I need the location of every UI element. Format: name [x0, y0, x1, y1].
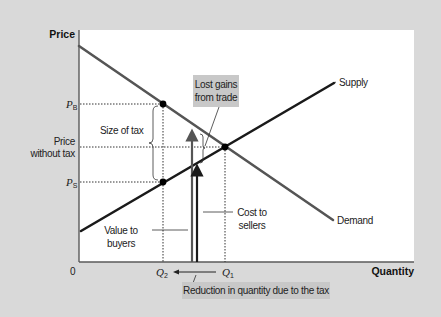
price-without-tax-label-line1: Price [54, 136, 76, 147]
size-of-tax-label: Size of tax [100, 125, 144, 136]
origin-label: 0 [70, 266, 76, 277]
supply-label: Supply [339, 77, 368, 88]
equilibrium-point [222, 144, 229, 151]
seller-price-point [160, 179, 167, 186]
value-to-buyers-label-line2: buyers [107, 238, 136, 249]
tax-deadweight-loss-diagram: Price Quantity 0 PB Price without tax PS… [0, 0, 441, 317]
x-axis-title: Quantity [371, 265, 414, 277]
reduction-leader [193, 275, 196, 283]
y-axis-title: Price [49, 28, 75, 40]
cost-to-sellers-label-line2: sellers [239, 220, 266, 231]
ps-label: PS [65, 176, 78, 189]
value-to-buyers-label-line1: Value to [104, 225, 138, 236]
price-without-tax-label-line2: without tax [29, 148, 75, 159]
buyer-price-point [160, 101, 167, 108]
lost-gains-label-line1: Lost gains [195, 79, 238, 90]
pb-label: PB [65, 98, 78, 111]
cost-to-sellers-label-line1: Cost to [237, 207, 267, 218]
q1-label: Q1 [222, 266, 234, 279]
q2-label: Q2 [156, 266, 168, 279]
reduction-label: Reduction in quantity due to the tax [183, 285, 329, 296]
lost-gains-label-line2: from trade [195, 92, 238, 103]
demand-label: Demand [337, 215, 373, 226]
